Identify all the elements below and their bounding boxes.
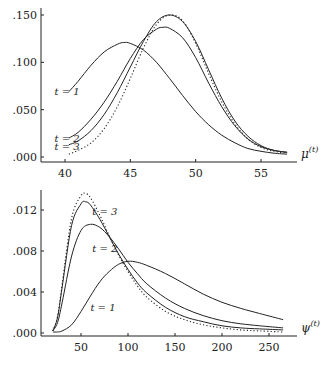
y-tick-label: .000 [13, 327, 38, 340]
x-tick-label: 100 [118, 341, 139, 354]
x-axis-label: ψ(t) [301, 319, 320, 335]
series-line-t-2 [53, 224, 283, 331]
x-tick-label: 45 [123, 167, 137, 180]
series-annotation: t = 3 [55, 141, 80, 152]
series-line-limit [53, 193, 283, 332]
series-line-t-3 [69, 15, 287, 152]
x-tick-label: 50 [189, 167, 203, 180]
x-tick-label: 55 [254, 167, 268, 180]
series-annotation: t = 1 [90, 302, 115, 313]
y-tick-label: .012 [13, 204, 38, 217]
y-tick-label: .050 [13, 104, 38, 117]
x-tick-label: 150 [165, 341, 186, 354]
series-line-t-1 [53, 261, 283, 332]
y-tick-label: .004 [13, 286, 38, 299]
x-tick-label: 200 [212, 341, 233, 354]
series-annotation: t = 1 [55, 86, 80, 97]
y-tick-label: .150 [13, 9, 38, 22]
series-line-limit [69, 15, 287, 154]
x-tick-label: 50 [74, 341, 88, 354]
psi-density-panel: .000.004.008.01250100150200250t = 3t = 2… [13, 190, 320, 354]
series-line-t-3 [53, 201, 283, 331]
mu-density-panel: .000.050.100.15040455055t = 1t = 2t = 3μ… [13, 8, 319, 180]
x-axis-label: μ(t) [301, 145, 318, 161]
x-tick-label: 250 [259, 341, 280, 354]
series-annotation: t = 2 [92, 243, 117, 254]
y-tick-label: .008 [13, 245, 38, 258]
figure: .000.050.100.15040455055t = 1t = 2t = 3μ… [0, 0, 328, 366]
x-tick-label: 40 [58, 167, 72, 180]
y-tick-label: .100 [13, 56, 38, 69]
series-annotation: t = 3 [92, 206, 117, 217]
series-line-t-1 [69, 42, 287, 154]
y-tick-label: .000 [13, 151, 38, 164]
